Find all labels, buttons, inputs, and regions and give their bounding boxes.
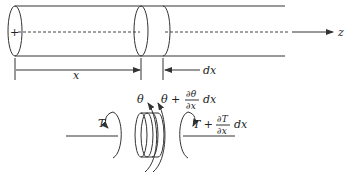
svg-text:∂θ: ∂θ <box>186 89 197 99</box>
svg-text:∂T: ∂T <box>217 114 229 124</box>
svg-text:θ +: θ + <box>161 93 180 106</box>
svg-text:T +: T + <box>193 118 213 131</box>
torque-right-label: T + ∂T ∂x dx <box>193 114 248 136</box>
svg-text:∂x: ∂x <box>186 101 196 111</box>
dx-label: dx <box>203 64 217 77</box>
origin-marker: + <box>10 26 19 39</box>
element-free-body <box>66 103 235 172</box>
z-axis-label: z <box>337 26 344 39</box>
theta-left-label: θ <box>137 93 144 106</box>
x-label: x <box>73 69 80 82</box>
torsion-diagram: + z x dx θ θ + ∂θ ∂x dx T T + <box>0 0 349 178</box>
svg-text:dx: dx <box>234 118 248 131</box>
shaft <box>8 6 333 56</box>
svg-text:dx: dx <box>203 93 217 106</box>
svg-text:∂x: ∂x <box>217 126 227 136</box>
dimension-x <box>15 58 200 80</box>
theta-right-label: θ + ∂θ ∂x dx <box>161 89 217 111</box>
